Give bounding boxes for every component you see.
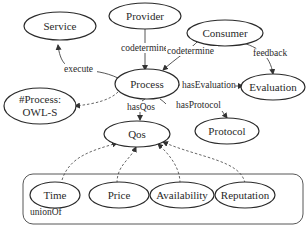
node-price: Price: [89, 182, 149, 208]
label-provider-codetermine: codetermine: [121, 43, 168, 53]
svg-text:OWL-S: OWL-S: [23, 106, 58, 118]
svg-text:Price: Price: [108, 189, 131, 201]
edge-availability-qos: [158, 144, 180, 183]
svg-text:Qos: Qos: [128, 128, 146, 140]
svg-text:Availability: Availability: [156, 189, 208, 201]
label-hasProtocol: hasProtocol: [176, 100, 221, 110]
svg-text:Reputation: Reputation: [221, 189, 270, 201]
edge-price-qos: [117, 147, 136, 183]
edge-process-owls: [75, 92, 118, 106]
node-reputation: Reputation: [215, 182, 275, 208]
node-consumer: Consumer: [187, 20, 263, 46]
node-time: Time: [30, 182, 80, 208]
svg-text:Protocol: Protocol: [208, 125, 245, 137]
svg-text:#Process:: #Process:: [19, 93, 61, 105]
label-consumer-codetermine: codetermine: [167, 46, 214, 56]
node-provider: Provider: [109, 3, 181, 29]
edge-reputation-qos: [163, 142, 245, 183]
ontology-diagram: unionOf Service Provider Consumer Proces…: [0, 0, 308, 227]
svg-text:Service: Service: [44, 20, 77, 32]
svg-text:Evaluation: Evaluation: [249, 81, 297, 93]
node-owls: #Process: OWL-S: [4, 88, 76, 124]
label-hasEvaluation: hasEvaluation: [182, 80, 236, 90]
node-process: Process: [115, 69, 179, 99]
svg-text:Process: Process: [130, 78, 164, 90]
svg-text:Time: Time: [44, 189, 67, 201]
node-service: Service: [24, 12, 96, 40]
node-protocol: Protocol: [195, 118, 259, 144]
svg-text:Provider: Provider: [126, 10, 164, 22]
label-feedback: feedback: [253, 48, 288, 58]
label-hasQos: hasQos: [127, 102, 155, 112]
svg-text:Consumer: Consumer: [202, 27, 248, 39]
label-execute: execute: [64, 64, 93, 74]
node-qos: Qos: [104, 121, 170, 147]
node-availability: Availability: [150, 182, 214, 208]
node-evaluation: Evaluation: [241, 74, 305, 100]
